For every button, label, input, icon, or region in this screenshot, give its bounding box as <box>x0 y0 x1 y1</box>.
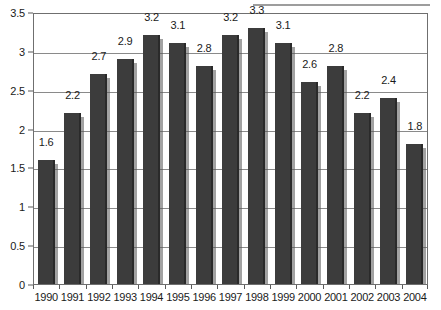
bar-value-label: 2.8 <box>197 42 212 54</box>
bar-value-label: 1.6 <box>39 136 54 148</box>
x-tick-label-1996: 1996 <box>193 291 216 303</box>
bar-group: 3.3 <box>248 14 265 284</box>
x-tick-mark <box>112 285 113 289</box>
x-tick-mark <box>86 285 87 289</box>
bar-group: 2.4 <box>380 14 397 284</box>
bar-group: 2.2 <box>64 14 81 284</box>
bar-shadow <box>134 63 137 284</box>
y-tick-label: 2.5 <box>10 86 25 97</box>
x-tick-label-2001: 2001 <box>324 291 347 303</box>
x-tick-label-1994: 1994 <box>140 291 163 303</box>
y-tick-label: 3 <box>19 47 25 58</box>
bar[interactable] <box>380 98 397 285</box>
x-tick-label-1992: 1992 <box>87 291 110 303</box>
bar-shadow <box>344 70 347 284</box>
bar-shadow <box>81 117 84 284</box>
x-tick-mark <box>138 285 139 289</box>
bar-value-label: 2.2 <box>355 89 370 101</box>
y-tick-label: 3.5 <box>10 8 25 19</box>
y-tick-label: 2 <box>19 125 25 136</box>
x-tick-mark <box>323 285 324 289</box>
y-tick-label: 0.5 <box>10 241 25 252</box>
x-tick-label-1993: 1993 <box>114 291 137 303</box>
bar-group: 1.6 <box>38 14 55 284</box>
bar-value-label: 2.8 <box>328 42 343 54</box>
bar-group: 2.7 <box>90 14 107 284</box>
x-tick-mark <box>402 285 403 289</box>
bar-shadow <box>239 39 242 284</box>
bar-value-label: 3.2 <box>223 11 238 23</box>
x-tick-label-2003: 2003 <box>377 291 400 303</box>
bar[interactable] <box>327 66 344 284</box>
bar-value-label: 2.9 <box>118 35 133 47</box>
bar-group: 2.2 <box>354 14 371 284</box>
bar[interactable] <box>275 43 292 284</box>
x-tick-mark <box>296 285 297 289</box>
bar-chart: 00.511.522.533.5 1.62.22.72.93.23.12.83.… <box>0 0 441 310</box>
bar[interactable] <box>406 144 423 284</box>
bar[interactable] <box>354 113 371 284</box>
x-tick-label-1995: 1995 <box>166 291 189 303</box>
bar-shadow <box>186 47 189 284</box>
y-tick-label: 1 <box>19 202 25 213</box>
x-tick-mark <box>191 285 192 289</box>
y-axis: 00.511.522.533.5 <box>0 13 29 285</box>
y-tick-label: 0 <box>19 280 25 291</box>
bar-shadow <box>160 39 163 284</box>
bar-value-label: 2.4 <box>381 74 396 86</box>
bar-shadow <box>265 32 268 284</box>
bar-value-label: 1.8 <box>407 120 422 132</box>
bar-group: 2.6 <box>301 14 318 284</box>
bar-value-label: 2.7 <box>91 50 106 62</box>
top-divider-rule <box>253 4 430 6</box>
bar[interactable] <box>38 160 55 284</box>
bar[interactable] <box>222 35 239 284</box>
bar-group: 3.1 <box>275 14 292 284</box>
x-tick-mark <box>165 285 166 289</box>
bar[interactable] <box>143 35 160 284</box>
bar-value-label: 3.1 <box>276 19 291 31</box>
bar-value-label: 3.2 <box>144 11 159 23</box>
x-tick-mark <box>244 285 245 289</box>
bar-value-label: 2.2 <box>65 89 80 101</box>
y-tick-label: 1.5 <box>10 163 25 174</box>
bar-group: 3.1 <box>169 14 186 284</box>
bar[interactable] <box>301 82 318 284</box>
bar-value-label: 3.3 <box>249 4 264 16</box>
x-axis: 1990199119921993199419951996199719981999… <box>33 285 428 310</box>
bar[interactable] <box>90 74 107 284</box>
bar[interactable] <box>196 66 213 284</box>
x-tick-mark <box>33 285 34 289</box>
bar-value-label: 3.1 <box>170 19 185 31</box>
x-tick-mark <box>59 285 60 289</box>
x-tick-label-2004: 2004 <box>403 291 426 303</box>
bar[interactable] <box>248 28 265 284</box>
bar[interactable] <box>169 43 186 284</box>
x-tick-mark <box>427 285 428 289</box>
bar-group: 3.2 <box>143 14 160 284</box>
bar-shadow <box>318 86 321 284</box>
bar[interactable] <box>64 113 81 284</box>
x-tick-label-1991: 1991 <box>61 291 84 303</box>
x-tick-mark <box>375 285 376 289</box>
bar-shadow <box>423 148 426 284</box>
plot-area: 1.62.22.72.93.23.12.83.23.33.12.62.82.22… <box>33 13 428 285</box>
x-tick-mark <box>270 285 271 289</box>
x-tick-label-1997: 1997 <box>219 291 242 303</box>
x-tick-label-1999: 1999 <box>272 291 295 303</box>
x-tick-label-1998: 1998 <box>245 291 268 303</box>
bar-shadow <box>213 70 216 284</box>
x-tick-label-1990: 1990 <box>35 291 58 303</box>
x-tick-mark <box>349 285 350 289</box>
bar-group: 2.8 <box>196 14 213 284</box>
bar-group: 1.8 <box>406 14 423 284</box>
bar-shadow <box>292 47 295 284</box>
bar-value-label: 2.6 <box>302 58 317 70</box>
x-tick-label-2002: 2002 <box>351 291 374 303</box>
bar-shadow <box>371 117 374 284</box>
bar-shadow <box>397 102 400 285</box>
bar-group: 2.8 <box>327 14 344 284</box>
bar-shadow <box>107 78 110 284</box>
bar[interactable] <box>117 59 134 284</box>
bars-layer: 1.62.22.72.93.23.12.83.23.33.12.62.82.22… <box>34 14 427 284</box>
